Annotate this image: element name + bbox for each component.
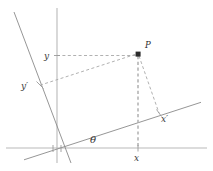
x-prime-axis-line	[24, 102, 201, 160]
point-p-label: P	[144, 40, 151, 50]
theta-angle-label: θ	[90, 134, 96, 145]
x-prime-projection-guide	[139, 56, 159, 113]
y-prime-coordinate-label: y′	[20, 81, 28, 91]
point-p-marker	[136, 52, 141, 57]
diagram-container: P y y′ x x′ θ	[0, 0, 213, 171]
x-prime-coordinate-label: x′	[161, 114, 168, 124]
y-prime-axis-tick	[37, 82, 44, 89]
coordinate-rotation-diagram: P y y′ x x′ θ	[0, 0, 213, 171]
y-coordinate-label: y	[43, 51, 50, 61]
x-coordinate-label: x	[134, 153, 139, 163]
y-prime-projection-guide	[40, 54, 138, 86]
